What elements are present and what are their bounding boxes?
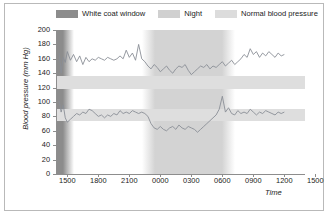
y-tick-mark <box>53 174 56 175</box>
x-tick-mark <box>315 174 316 177</box>
legend-item-white-coat-window: White coat window <box>56 9 145 18</box>
x-tick-label: 1200 <box>271 177 297 185</box>
legend-swatch-normal-blood-pressure <box>215 10 237 18</box>
x-tick-label: 1500 <box>54 177 80 185</box>
x-tick-mark <box>253 174 254 177</box>
legend-item-night: Night <box>158 9 202 18</box>
y-tick-mark <box>53 88 56 89</box>
y-tick-label: 0 <box>28 170 50 178</box>
x-axis-title: Time <box>265 188 282 197</box>
y-tick-label: 160 <box>28 55 50 63</box>
y-tick-mark <box>53 116 56 117</box>
legend-item-normal-blood-pressure: Normal blood pressure <box>215 9 318 18</box>
legend-label-white-coat-window: White coat window <box>82 9 145 18</box>
y-tick-mark <box>53 59 56 60</box>
x-tick-label: 0600 <box>209 177 235 185</box>
legend-swatch-night <box>158 10 180 18</box>
y-tick-label: 100 <box>28 98 50 106</box>
x-tick-mark <box>160 174 161 177</box>
chart-figure: White coat window Night Normal blood pre… <box>0 0 330 216</box>
y-tick-mark <box>53 30 56 31</box>
x-tick-label: 2100 <box>116 177 142 185</box>
x-tick-mark <box>98 174 99 177</box>
y-tick-label: 200 <box>28 26 50 34</box>
legend-label-night: Night <box>184 9 202 18</box>
y-tick-label: 180 <box>28 40 50 48</box>
y-tick-mark <box>53 145 56 146</box>
y-tick-mark <box>53 160 56 161</box>
y-tick-mark <box>53 44 56 45</box>
x-tick-label: 0900 <box>240 177 266 185</box>
x-tick-label: 1800 <box>85 177 111 185</box>
x-tick-label: 1500 <box>302 177 328 185</box>
y-axis-line <box>56 30 57 175</box>
plot-area <box>57 30 305 174</box>
legend-swatch-white-coat-window <box>56 10 78 18</box>
x-tick-mark <box>222 174 223 177</box>
x-tick-mark <box>191 174 192 177</box>
series-systolic <box>59 44 284 74</box>
y-tick-label: 40 <box>28 141 50 149</box>
y-tick-label: 80 <box>28 112 50 120</box>
x-axis-line <box>56 174 305 175</box>
x-tick-label: 0000 <box>147 177 173 185</box>
series-diastolic <box>59 96 284 132</box>
y-tick-label: 120 <box>28 84 50 92</box>
y-tick-label: 60 <box>28 127 50 135</box>
y-tick-mark <box>53 131 56 132</box>
x-tick-label: 0300 <box>178 177 204 185</box>
x-tick-mark <box>129 174 130 177</box>
chart-legend: White coat window Night Normal blood pre… <box>56 7 330 20</box>
y-tick-label: 140 <box>28 69 50 77</box>
legend-label-normal-blood-pressure: Normal blood pressure <box>241 9 318 18</box>
x-tick-mark <box>67 174 68 177</box>
y-tick-mark <box>53 102 56 103</box>
data-traces <box>57 30 305 174</box>
y-tick-label: 20 <box>28 156 50 164</box>
x-tick-mark <box>284 174 285 177</box>
y-tick-mark <box>53 73 56 74</box>
